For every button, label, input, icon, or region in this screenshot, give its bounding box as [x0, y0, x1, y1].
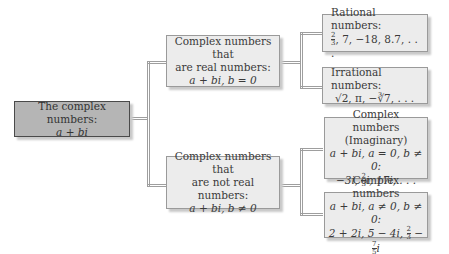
connector-to-irrational: [300, 86, 323, 89]
rational-examples: 23, 7, −18, 8.7, . . .: [331, 32, 424, 60]
real-formula: a + bi, b = 0: [170, 74, 276, 87]
connector-to-real: [147, 61, 167, 64]
complex-title: Complex numbers: [328, 174, 424, 200]
node-real-numbers: Complex numbers that are real numbers: a…: [166, 35, 280, 87]
node-rational-numbers: Rational numbers: 23, 7, −18, 8.7, . . .: [322, 14, 428, 52]
imaginary-subtitle: (Imaginary): [345, 134, 408, 147]
real-line2: are real numbers:: [170, 61, 276, 74]
node-complex-nonzero: Complex numbers a + bi, a ≠ 0, b ≠ 0: 2 …: [324, 192, 428, 238]
node-nonreal-numbers: Complex numbers that are not real number…: [166, 156, 280, 209]
rational-title: Rational numbers:: [331, 6, 424, 32]
real-line1: Complex numbers that: [170, 35, 276, 61]
complex-examples: 2 + 2i, 5 − 4i, 23 − 75i: [328, 226, 424, 254]
nonreal-formula: a + bi, b ≠ 0: [170, 202, 276, 215]
imaginary-title: Complex numbers: [328, 108, 424, 134]
connector-nonreal-vertical: [300, 148, 303, 215]
connector-mid-vertical: [147, 62, 150, 186]
irrational-examples: √2, π, −∛7, . . .: [331, 92, 414, 105]
connector-real-trunk: [280, 61, 300, 64]
connector-real-vertical: [300, 33, 303, 88]
connector-to-nonreal: [147, 184, 167, 187]
node-irrational-numbers: Irrational numbers: √2, π, −∛7, . . .: [322, 67, 428, 104]
root-formula: a + bi: [18, 126, 126, 139]
root-title: The complex numbers:: [18, 100, 126, 126]
connector-to-complex: [300, 213, 323, 216]
complex-condition: a + bi, a ≠ 0, b ≠ 0:: [328, 200, 424, 226]
node-complex-numbers: The complex numbers: a + bi: [14, 101, 130, 137]
nonreal-line1: Complex numbers that: [170, 150, 276, 176]
connector-to-imaginary: [300, 148, 323, 151]
irrational-title: Irrational numbers:: [331, 66, 424, 92]
node-imaginary-numbers: Complex numbers (Imaginary) a + bi, a = …: [324, 117, 428, 179]
connector-root-trunk: [130, 117, 148, 120]
connector-to-rational: [300, 32, 323, 35]
connector-nonreal-trunk: [280, 184, 300, 187]
imaginary-condition: a + bi, a = 0, b ≠ 0:: [328, 147, 424, 173]
nonreal-line2: are not real numbers:: [170, 176, 276, 202]
